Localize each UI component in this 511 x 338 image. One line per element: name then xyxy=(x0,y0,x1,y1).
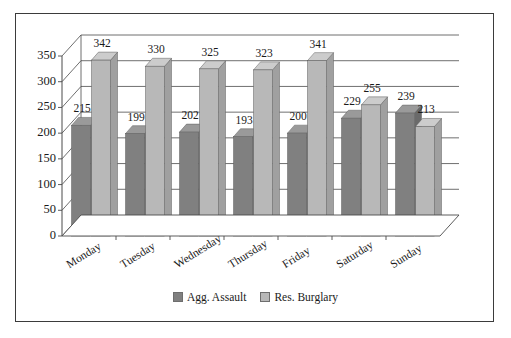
y-axis-tick-label: 150 xyxy=(24,151,56,166)
data-label: 193 xyxy=(230,114,259,126)
y-axis-tick-label: 0 xyxy=(24,228,56,243)
y-axis-tick-label: 300 xyxy=(24,74,56,89)
legend-swatch-res-burglary xyxy=(260,292,270,302)
data-label: 325 xyxy=(196,46,225,58)
floor-plane xyxy=(62,215,459,236)
legend-item[interactable]: Res. Burglary xyxy=(260,291,338,303)
y-axis-tick-label: 250 xyxy=(24,99,56,114)
y-axis-tick-label: 200 xyxy=(24,125,56,140)
data-label: 215 xyxy=(68,102,97,114)
y-axis-tick-label: 100 xyxy=(24,177,56,192)
data-label: 200 xyxy=(284,110,313,122)
data-label: 323 xyxy=(250,47,279,59)
bar-group xyxy=(72,52,442,236)
data-label: 330 xyxy=(142,43,171,55)
y-axis-tick-label: 350 xyxy=(24,48,56,63)
chart-legend: Agg. AssaultRes. Burglary xyxy=(0,291,511,303)
data-label: 229 xyxy=(338,95,367,107)
data-label: 255 xyxy=(358,82,387,94)
y-axis-tick-label: 50 xyxy=(24,202,56,217)
data-label: 239 xyxy=(392,90,421,102)
data-label: 341 xyxy=(304,38,333,50)
legend-label: Agg. Assault xyxy=(187,291,246,303)
legend-label: Res. Burglary xyxy=(274,291,338,303)
data-label: 202 xyxy=(176,109,205,121)
legend-item[interactable]: Agg. Assault xyxy=(173,291,246,303)
data-label: 213 xyxy=(412,103,441,115)
legend-swatch-agg-assault xyxy=(173,292,183,302)
data-label: 199 xyxy=(122,111,151,123)
data-label: 342 xyxy=(88,37,117,49)
